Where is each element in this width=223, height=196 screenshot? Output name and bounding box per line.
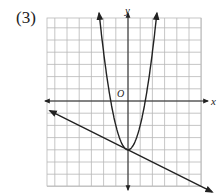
- y-axis-label: y: [124, 4, 130, 16]
- grid: [47, 18, 201, 186]
- x-axis-label: x: [210, 95, 216, 107]
- origin-label: O: [117, 88, 124, 99]
- axes: [45, 13, 208, 190]
- coordinate-plane: x y O: [0, 0, 223, 196]
